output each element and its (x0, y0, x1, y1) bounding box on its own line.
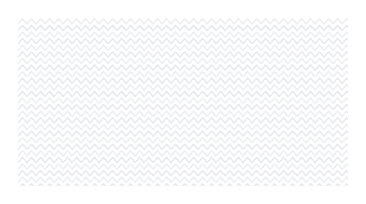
chevron-wave-row (18, 85, 348, 90)
chevron-wave-row (18, 138, 348, 143)
chevron-wave-row (18, 118, 348, 123)
chevron-pattern-surface (18, 18, 348, 186)
chevron-wave-row (18, 52, 348, 57)
chevron-wave-svg (18, 18, 348, 186)
chevron-wave-row (18, 78, 348, 83)
chevron-wave-row (18, 151, 348, 156)
chevron-wave-row (18, 91, 348, 96)
chevron-wave-row (18, 105, 348, 110)
chevron-wave-row (18, 124, 348, 129)
chevron-wave-row (18, 72, 348, 77)
chevron-wave-row (18, 171, 348, 176)
chevron-wave-row (18, 58, 348, 63)
chevron-wave-row (18, 184, 348, 186)
chevron-wave-row (18, 39, 348, 44)
chevron-wave-row (18, 25, 348, 30)
artwork-canvas: Chevron Wave Pattern Swatch (0, 0, 366, 204)
chevron-wave-row (18, 177, 348, 182)
chevron-wave-row (18, 45, 348, 50)
chevron-wave-row (18, 111, 348, 116)
chevron-wave-row (18, 65, 348, 70)
chevron-wave-row (18, 131, 348, 136)
chevron-wave-row (18, 19, 348, 24)
chevron-wave-row (18, 157, 348, 162)
chevron-wave-row (18, 144, 348, 149)
chevron-wave-row (18, 32, 348, 37)
chevron-wave-row (18, 98, 348, 103)
chevron-wave-row (18, 164, 348, 169)
